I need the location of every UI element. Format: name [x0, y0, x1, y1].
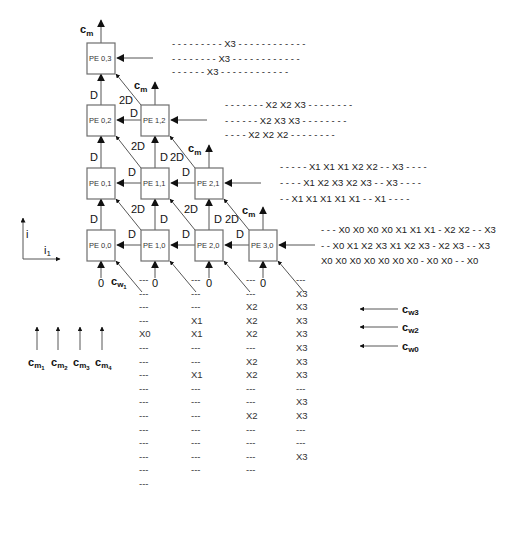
column-cell: ---	[296, 274, 306, 285]
stream-row2-line2: - - - - - - X2 X3 X3 - - - - - - - -	[225, 115, 346, 126]
cm3-label: cm3	[73, 356, 90, 371]
stream-row3-line2: - - - - - - - - X3 - - - - - - - - - - -…	[172, 53, 300, 64]
column-cell: X3	[296, 342, 308, 353]
stream-row2-line1: - - - - - - - X2 X2 X3 - - - - - - - -	[225, 99, 352, 110]
svg-text:2D: 2D	[119, 94, 133, 106]
svg-text:PE 0,0: PE 0,0	[89, 241, 112, 250]
svg-text:0: 0	[98, 277, 104, 289]
column-cell: ---	[296, 383, 306, 394]
stream-row1-line3: - - X1 X1 X1 X1 X1 - - X1 - - - -	[280, 193, 409, 204]
column-cell: ---	[139, 369, 149, 380]
svg-text:PE 1,1: PE 1,1	[143, 179, 166, 188]
cm4-label: cm4	[95, 356, 112, 371]
svg-text:2D: 2D	[184, 203, 198, 215]
data-column-3: ------X2X2X2---X2X2------X2------------	[246, 274, 258, 475]
column-cell: X2	[246, 356, 258, 367]
column-cell: ---	[191, 437, 201, 448]
pe-1-2: PE 1,2	[141, 105, 169, 136]
svg-text:D: D	[90, 89, 98, 101]
column-cell: ---	[139, 437, 149, 448]
cm-label: cm	[188, 142, 201, 157]
column-cell: X0	[139, 328, 151, 339]
cm2-label: cm2	[51, 356, 68, 371]
column-cell: ---	[246, 424, 256, 435]
svg-text:PE 1,0: PE 1,0	[143, 241, 166, 250]
column-cell: ---	[191, 464, 201, 475]
column-cell: X3	[296, 451, 308, 462]
column-cell: ---	[139, 464, 149, 475]
column-cell: X3	[296, 301, 308, 312]
stream-row1-line1: - - - - - X1 X1 X1 X2 X2 - - X3 - - - -	[280, 161, 427, 172]
svg-text:0: 0	[260, 277, 266, 289]
svg-text:PE 2,0: PE 2,0	[197, 241, 220, 250]
column-cell: X2	[246, 328, 258, 339]
column-cell: ---	[139, 410, 149, 421]
column-cell: ---	[191, 451, 201, 462]
column-cell: ---	[191, 424, 201, 435]
column-cell: ---	[296, 424, 306, 435]
svg-text:PE 1,2: PE 1,2	[143, 116, 166, 125]
pe-0-3: PE 0,3	[87, 43, 115, 74]
svg-text:D: D	[236, 228, 244, 240]
column-cell: X3	[296, 410, 308, 421]
column-cell: ---	[296, 437, 306, 448]
cw1-label: cw1	[111, 275, 127, 290]
column-cell: ---	[191, 301, 201, 312]
column-cell: ---	[191, 274, 201, 285]
svg-text:D: D	[214, 213, 222, 225]
systolic-array-diagram: cm cm cm cm D D D D D D D D D D D D 2D	[0, 0, 530, 543]
column-cell: ---	[246, 288, 256, 299]
column-cell: ---	[246, 451, 256, 462]
column-cell: ---	[191, 410, 201, 421]
column-cell: X3	[296, 288, 308, 299]
column-cell: X3	[296, 396, 308, 407]
column-cell: ---	[246, 383, 256, 394]
svg-text:0: 0	[152, 277, 158, 289]
column-cell: ---	[191, 356, 201, 367]
svg-text:D: D	[182, 166, 190, 178]
column-cell: X2	[246, 369, 258, 380]
column-cell: ---	[139, 342, 149, 353]
pe-2-1: PE 2,1	[195, 168, 223, 199]
svg-text:2D: 2D	[131, 140, 145, 152]
svg-text:D: D	[160, 151, 168, 163]
cw0-label: cw0	[402, 340, 419, 354]
svg-text:i1: i1	[44, 244, 51, 258]
svg-text:PE 0,2: PE 0,2	[89, 116, 112, 125]
pe-0-1: PE 0,1	[87, 168, 115, 199]
cm1-label: cm1	[28, 356, 45, 371]
svg-text:D: D	[90, 151, 98, 163]
svg-text:2D: 2D	[131, 203, 145, 215]
svg-text:PE 2,1: PE 2,1	[197, 179, 220, 188]
cm-label: cm	[242, 204, 255, 219]
svg-text:2D: 2D	[170, 151, 184, 163]
column-cell: ---	[139, 451, 149, 462]
column-cell: ---	[139, 315, 149, 326]
pe-3-0: PE 3,0	[249, 230, 277, 261]
pe-2-0: PE 2,0	[195, 230, 223, 261]
svg-text:D: D	[90, 213, 98, 225]
column-cell: ---	[191, 342, 201, 353]
svg-text:D: D	[182, 228, 190, 240]
cw-inputs: cw3 cw2 cw0	[360, 303, 419, 354]
column-cell: X2	[246, 410, 258, 421]
column-cell: ---	[191, 396, 201, 407]
cm-output-group: cm1 cm2 cm3 cm4	[28, 327, 112, 371]
stream-row0-line1: - - - X0 X0 X0 X0 X1 X1 X1 - X2 X2 - - X…	[321, 224, 496, 235]
svg-text:PE 0,3: PE 0,3	[89, 54, 112, 63]
cw3-label: cw3	[402, 303, 419, 317]
cw2-label: cw2	[402, 321, 419, 335]
column-cell: X1	[191, 328, 203, 339]
stream-row2-line3: - - - - X2 X2 X2 - - - - - - - -	[225, 129, 335, 140]
column-cell: ---	[246, 342, 256, 353]
data-column-1: ------------X0--------------------------…	[139, 274, 151, 489]
data-column-4: ---X3X3X3X3X3X3X3---X3X3------X3	[296, 274, 308, 462]
svg-text:0: 0	[206, 277, 212, 289]
column-cell: ---	[139, 288, 149, 299]
svg-text:PE 0,1: PE 0,1	[89, 179, 112, 188]
column-cell: ---	[246, 464, 256, 475]
stream-row3-line1: - - - - - - - - - X3 - - - - - - - - - -…	[172, 38, 305, 49]
data-columns: ------------X0--------------------------…	[139, 274, 308, 489]
svg-text:D: D	[130, 107, 138, 119]
column-cell: X1	[191, 369, 203, 380]
